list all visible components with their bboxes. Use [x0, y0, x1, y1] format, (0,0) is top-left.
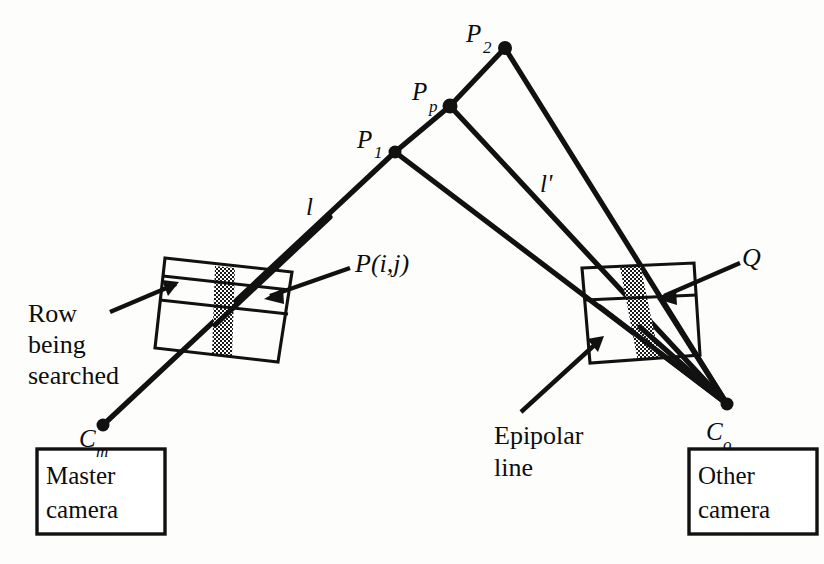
label-pp-base: P — [411, 78, 427, 105]
label-p2-subscript: 2 — [483, 38, 492, 57]
vertex-dot-pp — [443, 99, 458, 114]
label-p2-base: P — [465, 20, 481, 47]
vertex-dot-p1 — [389, 146, 402, 159]
row-label-line2: being — [28, 330, 86, 359]
other-camera-label-line1: Other — [698, 462, 756, 489]
label-p-i-j: P(i,j) — [354, 249, 409, 278]
label-p1-base: P — [356, 126, 372, 153]
label-pp-subscript: p — [428, 97, 438, 116]
row-label-line1: Row — [28, 299, 77, 328]
master-camera-label-line2: camera — [46, 496, 118, 523]
row-label-line3: searched — [28, 361, 119, 390]
other-camera-label-line2: camera — [698, 496, 770, 523]
master-camera-box[interactable]: Master camera — [37, 449, 165, 534]
vertex-dot-p2 — [498, 41, 512, 55]
label-ray-l: l — [306, 193, 313, 220]
label-ray-l-prime: l' — [540, 170, 553, 197]
epipolar-label-line1: Epipolar — [494, 421, 584, 450]
vertex-dot-cm — [97, 419, 110, 432]
vertex-dot-co — [721, 398, 734, 411]
label-q: Q — [742, 243, 761, 272]
epipolar-label-line2: line — [494, 453, 533, 482]
label-cm-base: C — [79, 425, 96, 452]
master-camera-label-line1: Master — [46, 462, 116, 489]
label-co-base: C — [706, 418, 723, 445]
figure-root: Master camera Other camera P 1 P p P 2 C… — [0, 0, 824, 564]
label-p1-subscript: 1 — [374, 143, 383, 162]
label-cm-subscript: m — [96, 442, 108, 461]
other-camera-box[interactable]: Other camera — [689, 449, 817, 534]
label-co-subscript: o — [723, 435, 732, 454]
epipolar-geometry-diagram: Master camera Other camera P 1 P p P 2 C… — [0, 0, 824, 564]
